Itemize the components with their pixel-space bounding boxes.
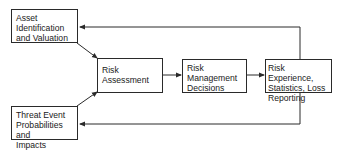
edge-threat-to-assessment	[77, 92, 97, 106]
node-risk-assessment: Risk Assessment	[97, 58, 163, 93]
node-label-line: Identification	[16, 23, 73, 33]
node-label-line: Decisions	[187, 83, 242, 93]
node-label-line: Statistics, Loss	[268, 83, 330, 93]
node-label-line: Asset	[16, 13, 73, 23]
node-label-line: Risk	[102, 65, 158, 75]
node-risk-management-decisions: Risk Management Decisions	[182, 59, 247, 93]
node-asset-identification: Asset Identification and Valuation	[11, 9, 78, 43]
node-label-line: Risk Experience,	[268, 63, 330, 83]
node-label-line: Impacts	[16, 140, 73, 150]
node-label-line: Risk	[187, 63, 242, 73]
node-label-line: and Valuation	[16, 33, 73, 43]
node-label-line: Management	[187, 73, 242, 83]
node-label-line: Probabilities and	[16, 120, 73, 140]
node-threat-event: Threat Event Probabilities and Impacts	[11, 106, 78, 140]
edge-asset-to-assessment	[77, 43, 97, 58]
node-risk-experience: Risk Experience, Statistics, Loss Report…	[265, 59, 332, 93]
edge-experience-to-asset	[80, 27, 300, 59]
node-label-line: Assessment	[102, 75, 158, 85]
node-label-line: Threat Event	[16, 110, 73, 120]
edge-experience-to-threat	[80, 93, 300, 124]
node-label-line: Reporting	[268, 93, 330, 103]
